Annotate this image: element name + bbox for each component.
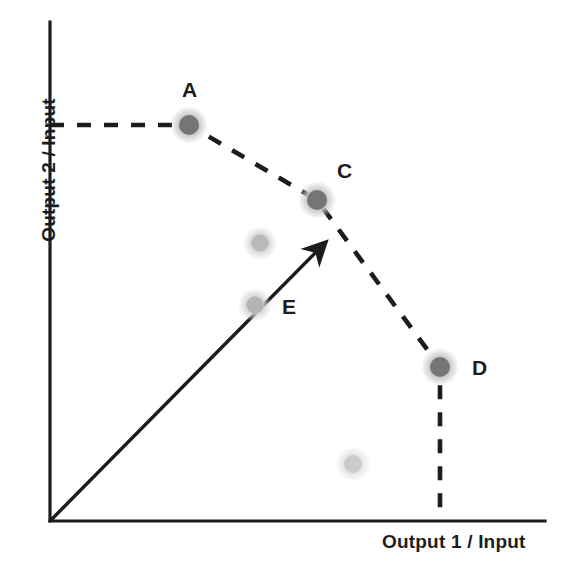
data-point-unlabeled-upper — [243, 226, 277, 260]
y-axis-title: Output 2 / Input — [32, 40, 66, 300]
efficiency-frontier-figure: A C D E Output 2 / Input Output 1 / Inpu… — [0, 0, 562, 575]
data-point-a — [170, 106, 208, 144]
point-label-d: D — [472, 357, 487, 378]
data-points — [170, 106, 459, 482]
data-point-d — [421, 348, 459, 386]
data-point-c — [298, 181, 336, 219]
data-point-e — [238, 288, 272, 322]
x-axis-title: Output 1 / Input — [382, 531, 526, 553]
data-point-unlabeled-lower — [335, 446, 371, 482]
point-label-a: A — [182, 79, 197, 100]
projection-ray-line — [50, 242, 326, 521]
point-label-c: C — [337, 160, 352, 181]
point-label-e: E — [282, 296, 296, 317]
plot-canvas — [0, 0, 562, 575]
projection-ray — [50, 242, 326, 521]
